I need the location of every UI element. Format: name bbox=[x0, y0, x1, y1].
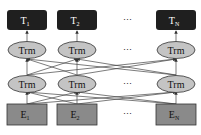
bert-diagram: T1 T2 ⋯ TN Trm Trm ⋯ Trm Trm Trm ⋯ Trm E… bbox=[0, 0, 201, 135]
output-token-t2: T2 bbox=[57, 10, 97, 30]
cross-connections-lower bbox=[27, 92, 176, 104]
lower-trm-1: Trm bbox=[8, 76, 46, 93]
input-embedding-e1: E1 bbox=[7, 104, 47, 125]
svg-text:Trm: Trm bbox=[168, 45, 185, 56]
cross-connections-upper bbox=[27, 59, 176, 75]
svg-text:Trm: Trm bbox=[69, 45, 86, 56]
lower-trm-n: Trm bbox=[157, 76, 195, 93]
ellipsis-lower: ⋯ bbox=[123, 79, 132, 89]
svg-text:Trm: Trm bbox=[69, 79, 86, 90]
output-arrows bbox=[27, 31, 176, 42]
ellipsis-top: ⋯ bbox=[123, 15, 132, 25]
ellipsis-upper: ⋯ bbox=[123, 45, 132, 55]
ellipsis-bottom: ⋯ bbox=[123, 109, 132, 119]
input-embedding-e2: E2 bbox=[57, 104, 97, 125]
svg-text:Trm: Trm bbox=[168, 79, 185, 90]
input-embedding-en: EN bbox=[156, 104, 196, 125]
svg-text:Trm: Trm bbox=[19, 79, 36, 90]
svg-text:Trm: Trm bbox=[19, 45, 36, 56]
upper-trm-n: Trm bbox=[157, 42, 195, 59]
lower-trm-2: Trm bbox=[58, 76, 96, 93]
output-token-t1: T1 bbox=[7, 10, 47, 30]
output-token-tn: TN bbox=[156, 10, 196, 30]
upper-trm-2: Trm bbox=[58, 42, 96, 59]
upper-trm-1: Trm bbox=[8, 42, 46, 59]
